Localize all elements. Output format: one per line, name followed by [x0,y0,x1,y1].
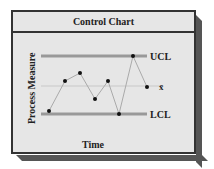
lcl-label: LCL [150,109,171,120]
mean-label: x̄ [159,82,164,92]
process-series-line [49,56,147,114]
ucl-label: UCL [150,51,171,62]
x-axis-label: Time [82,139,105,150]
control-chart-plot: UCL x̄ LCL Process Measure Time [0,0,214,169]
y-axis-label: Process Measure [26,52,37,124]
